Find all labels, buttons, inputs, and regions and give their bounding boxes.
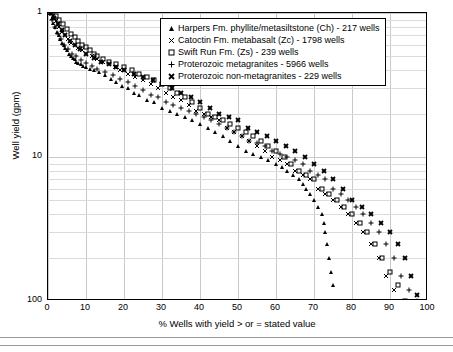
- gridline-horizontal-minor: [48, 88, 426, 89]
- data-point: [117, 76, 123, 82]
- data-point: [224, 125, 230, 131]
- gridline-horizontal-major: [48, 157, 426, 158]
- data-point: [302, 154, 308, 160]
- data-point: [414, 292, 420, 298]
- gridline-horizontal-major: [48, 13, 426, 14]
- data-point: [186, 108, 192, 114]
- legend-marker-icon: [164, 61, 178, 68]
- data-point: [349, 197, 355, 203]
- divider-line-bottom: [0, 345, 453, 346]
- legend-marker-icon: [164, 49, 178, 56]
- data-point: [150, 77, 156, 83]
- data-point: [208, 117, 214, 123]
- data-point: [330, 282, 336, 288]
- data-point: [326, 255, 332, 261]
- data-point: [284, 154, 290, 160]
- data-point: [207, 105, 213, 111]
- data-point: [131, 71, 137, 77]
- data-point: [383, 241, 389, 247]
- legend-marker-icon: [164, 37, 178, 44]
- y-tick-label: 10: [16, 150, 42, 160]
- data-point: [163, 99, 169, 105]
- data-point: [102, 69, 108, 75]
- data-point: [226, 114, 232, 120]
- data-point: [319, 186, 325, 192]
- data-point: [402, 255, 408, 261]
- data-point: [315, 204, 321, 210]
- data-point: [243, 148, 249, 154]
- data-point: [395, 282, 401, 288]
- data-point: [132, 83, 138, 89]
- gridline-horizontal-minor: [48, 189, 426, 190]
- x-tick-label: 70: [301, 302, 325, 312]
- data-point: [269, 148, 275, 154]
- data-point: [296, 168, 302, 174]
- data-point: [379, 255, 385, 261]
- data-point: [193, 111, 199, 117]
- data-point: [395, 241, 401, 247]
- x-tick-label: 100: [415, 302, 439, 312]
- data-point: [110, 72, 116, 78]
- data-point: [245, 125, 251, 131]
- gridline-horizontal-minor: [48, 114, 426, 115]
- data-point: [170, 102, 176, 108]
- legend-item: Harpers Fm. phyllite/metasiltstone (Ch) …: [164, 22, 380, 34]
- data-point: [83, 51, 89, 57]
- data-point: [174, 111, 180, 117]
- data-point: [364, 229, 370, 235]
- data-point: [372, 241, 378, 247]
- data-point: [212, 129, 218, 135]
- data-point: [292, 157, 298, 163]
- data-point: [254, 129, 260, 135]
- data-point: [262, 143, 268, 149]
- data-point: [239, 133, 245, 139]
- gridline-horizontal-minor: [48, 258, 426, 259]
- data-point: [332, 298, 338, 300]
- gridline-horizontal-minor: [48, 164, 426, 165]
- data-point: [311, 161, 317, 167]
- data-point: [408, 273, 414, 279]
- data-point: [216, 121, 222, 127]
- data-point: [258, 154, 264, 160]
- data-point: [113, 64, 119, 70]
- gridline-horizontal-minor: [48, 179, 426, 180]
- data-point: [324, 241, 330, 247]
- legend-marker-icon: [164, 73, 178, 80]
- data-point: [322, 176, 328, 182]
- data-point: [235, 117, 241, 123]
- legend-item: Catoctin Fm. metabasalt (Zc) - 1798 well…: [164, 34, 380, 46]
- data-point: [273, 138, 279, 144]
- data-point: [169, 85, 175, 91]
- y-axis-label: Well yield (gpm): [10, 66, 21, 186]
- data-point: [283, 143, 289, 149]
- legend-item: Proterozoic metagranites - 5966 wells: [164, 58, 380, 70]
- data-point: [349, 211, 355, 217]
- data-point: [197, 99, 203, 105]
- data-point: [121, 67, 127, 73]
- data-point: [359, 204, 365, 210]
- divider-line-top: [0, 337, 453, 338]
- data-point: [159, 105, 165, 111]
- data-point: [254, 140, 260, 146]
- x-tick-label: 30: [149, 302, 173, 312]
- data-point: [277, 151, 283, 157]
- data-point: [148, 92, 154, 98]
- legend-label: Catoctin Fm. metabasalt (Zc) - 1798 well…: [178, 34, 345, 46]
- data-point: [182, 114, 188, 120]
- data-point: [269, 154, 275, 160]
- data-point: [197, 121, 203, 127]
- data-point: [360, 211, 366, 217]
- x-tick-label: 40: [187, 302, 211, 312]
- data-point: [231, 129, 237, 135]
- data-point: [235, 143, 241, 149]
- data-point: [307, 168, 313, 174]
- data-point: [155, 94, 161, 100]
- data-point: [140, 87, 146, 93]
- gridline-horizontal-minor: [48, 171, 426, 172]
- data-point: [334, 197, 340, 203]
- legend-item: Proterozoic non-metagranites - 229 wells: [164, 70, 380, 82]
- legend-label: Swift Run Fm. (Zs) - 239 wells: [178, 46, 299, 58]
- legend-label: Harpers Fm. phyllite/metasiltstone (Ch) …: [178, 22, 380, 34]
- data-point: [406, 287, 412, 293]
- chart-legend: Harpers Fm. phyllite/metasiltstone (Ch) …: [160, 18, 386, 86]
